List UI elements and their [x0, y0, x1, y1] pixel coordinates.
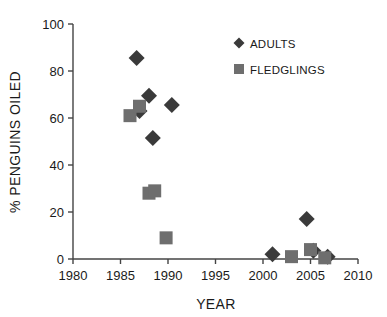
data-point-diamond	[129, 50, 145, 66]
y-axis-title: % PENGUINS OILED	[7, 71, 23, 213]
y-tick-label: 80	[50, 64, 64, 79]
legend-label: FLEDGLINGS	[250, 64, 325, 76]
series-fledglings	[124, 100, 332, 265]
data-point-diamond	[164, 97, 180, 113]
legend-label: ADULTS	[250, 38, 296, 50]
legend-item-adults: ADULTS	[234, 38, 296, 50]
data-point-square	[304, 243, 317, 256]
axis-ticks	[68, 24, 358, 264]
legend-diamond-icon	[234, 38, 245, 49]
data-point-square	[160, 231, 173, 244]
x-tick-label: 2005	[296, 268, 325, 283]
data-point-square	[285, 250, 298, 263]
data-point-square	[318, 251, 331, 264]
y-tick-label: 40	[50, 158, 64, 173]
legend: ADULTSFLEDGLINGS	[234, 38, 325, 76]
x-tick-label: 2000	[249, 268, 278, 283]
x-tick-label: 1995	[201, 268, 230, 283]
x-tick-label: 1990	[154, 268, 183, 283]
oiled-penguins-scatter-chart: 1980198519901995200020052010 02040608010…	[0, 0, 387, 317]
data-point-diamond	[145, 130, 161, 146]
data-point-square	[133, 100, 146, 113]
data-point-square	[148, 184, 161, 197]
y-tick-label: 0	[57, 252, 64, 267]
legend-square-icon	[234, 64, 244, 74]
chart-canvas: 1980198519901995200020052010 02040608010…	[0, 0, 387, 317]
axes	[73, 24, 358, 259]
x-tick-label: 2010	[344, 268, 373, 283]
x-tick-label: 1980	[59, 268, 88, 283]
y-tick-label: 20	[50, 205, 64, 220]
y-tick-label: 100	[42, 17, 64, 32]
x-axis-tick-labels: 1980198519901995200020052010	[59, 268, 373, 283]
data-point-diamond	[265, 246, 281, 262]
y-tick-label: 60	[50, 111, 64, 126]
legend-item-fledglings: FLEDGLINGS	[234, 64, 325, 76]
x-axis-title: YEAR	[196, 296, 236, 312]
data-series	[124, 50, 336, 265]
y-axis-tick-labels: 020406080100	[42, 17, 64, 267]
x-tick-label: 1985	[106, 268, 135, 283]
data-point-diamond	[299, 211, 315, 227]
